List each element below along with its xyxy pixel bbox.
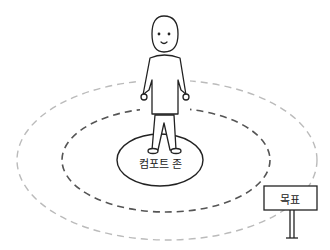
right-eye <box>168 33 170 35</box>
comfort-zone-diagram <box>0 0 330 250</box>
left-eye <box>158 33 160 35</box>
comfort-zone-label: 컴포트 존 <box>139 155 183 171</box>
goal-sign-label: 목표 <box>280 191 300 207</box>
